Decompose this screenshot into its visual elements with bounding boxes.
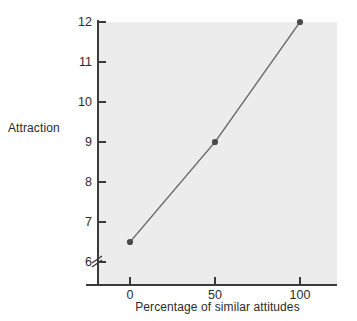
series-line [130, 22, 300, 242]
series-markers [127, 19, 303, 245]
data-point-50 [212, 139, 218, 145]
chart-figure: 1211109876 050100 Attraction Percentage … [0, 0, 357, 321]
data-point-100 [297, 19, 303, 25]
data-series-layer [0, 0, 357, 321]
data-point-0 [127, 239, 133, 245]
